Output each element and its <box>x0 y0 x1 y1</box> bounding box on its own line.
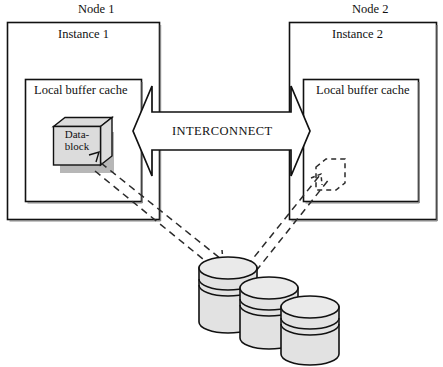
diagram-vector-layer <box>0 0 443 367</box>
data-block-label: Data- block <box>54 128 100 152</box>
diagram-canvas: Node 1 Instance 1 Local buffer cache Nod… <box>0 0 443 367</box>
node-2-label: Node 2 <box>352 2 388 17</box>
node-1-cache-label: Local buffer cache <box>34 83 127 98</box>
interconnect-label: INTERCONNECT <box>172 124 273 139</box>
node-1-label: Node 1 <box>78 2 114 17</box>
storage-disk-3 <box>281 296 339 365</box>
node-2-instance-label: Instance 2 <box>332 27 383 42</box>
data-block-label-line1: Data- <box>54 128 100 140</box>
data-block-label-line2: block <box>54 140 100 152</box>
node-2-cache-label: Local buffer cache <box>316 83 409 98</box>
data-block-side-face <box>101 118 113 166</box>
node-1-instance-label: Instance 1 <box>58 27 109 42</box>
